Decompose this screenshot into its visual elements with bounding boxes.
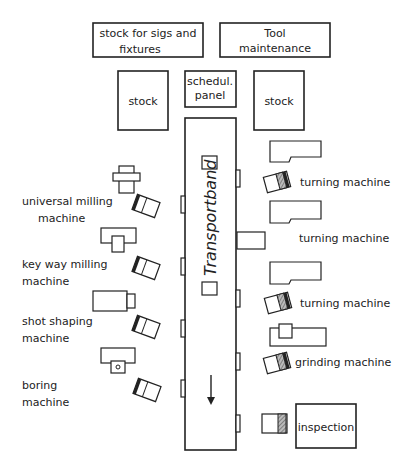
inspection-label: inspection <box>298 421 355 434</box>
schedul-panel-box: schedul. panel <box>185 71 236 107</box>
stock-left-box: stock <box>118 71 168 130</box>
turning-machine-3-label: turning machine <box>300 297 391 310</box>
shot-shaping-machine: shot shaping machine <box>22 291 160 345</box>
shot-shaping-label-2: machine <box>22 332 70 345</box>
jigs-stock-label-line2: fixtures <box>119 43 161 56</box>
universal-milling-label-1: universal milling <box>22 195 113 208</box>
schedul-panel-line1: schedul. <box>187 75 233 88</box>
stock-right-label: stock <box>264 95 294 108</box>
jigs-stock-label-line1: stock for sigs and <box>99 27 196 40</box>
boring-label-1: boring <box>22 379 57 392</box>
tool-maintenance-box: Tool maintenance <box>220 23 330 57</box>
grinding-machine: grinding machine <box>263 324 391 374</box>
universal-milling-machine: universal milling machine <box>22 166 160 225</box>
inspection-station: inspection <box>262 404 356 448</box>
stock-left-label: stock <box>128 95 158 108</box>
turning-machine-1-label: turning machine <box>300 176 391 189</box>
universal-milling-label-2: machine <box>38 212 86 225</box>
tool-maintenance-label-line1: Tool <box>263 27 285 40</box>
transport-band-conveyor: Transportband <box>181 118 240 450</box>
key-way-milling-label-1: key way milling <box>22 258 107 271</box>
key-way-milling-machine: key way milling machine <box>22 228 160 288</box>
pallet-2 <box>202 282 217 295</box>
boring-label-2: machine <box>22 396 70 409</box>
turning-machine-2: turning machine <box>270 201 390 245</box>
grinding-machine-label: grinding machine <box>295 356 392 369</box>
turning-machine-3: turning machine <box>264 262 390 314</box>
stock-right-box: stock <box>254 71 304 130</box>
loading-station <box>237 232 265 249</box>
tool-maintenance-label-line2: maintenance <box>239 42 311 55</box>
shot-shaping-label-1: shot shaping <box>22 315 93 328</box>
factory-layout-diagram: stock for sigs and fixtures Tool mainten… <box>0 0 409 473</box>
transportband-label: Transportband <box>201 159 220 276</box>
turning-machine-1: turning machine <box>263 141 390 193</box>
boring-machine: boring machine <box>22 348 161 409</box>
schedul-panel-line2: panel <box>195 89 226 102</box>
jigs-fixtures-stock-box: stock for sigs and fixtures <box>93 23 203 57</box>
key-way-milling-label-2: machine <box>22 275 70 288</box>
turning-machine-2-label: turning machine <box>299 232 390 245</box>
